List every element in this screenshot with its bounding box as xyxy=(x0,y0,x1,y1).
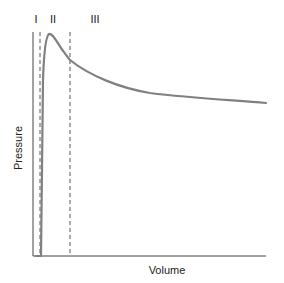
phase-label-ii: II xyxy=(50,13,56,25)
pressure-volume-chart: I II III Volume Pressure xyxy=(0,0,284,283)
y-axis-label: Pressure xyxy=(12,126,24,170)
phase-label-i: I xyxy=(34,13,37,25)
phase-label-iii: III xyxy=(90,13,99,25)
x-axis-label: Volume xyxy=(149,264,186,276)
